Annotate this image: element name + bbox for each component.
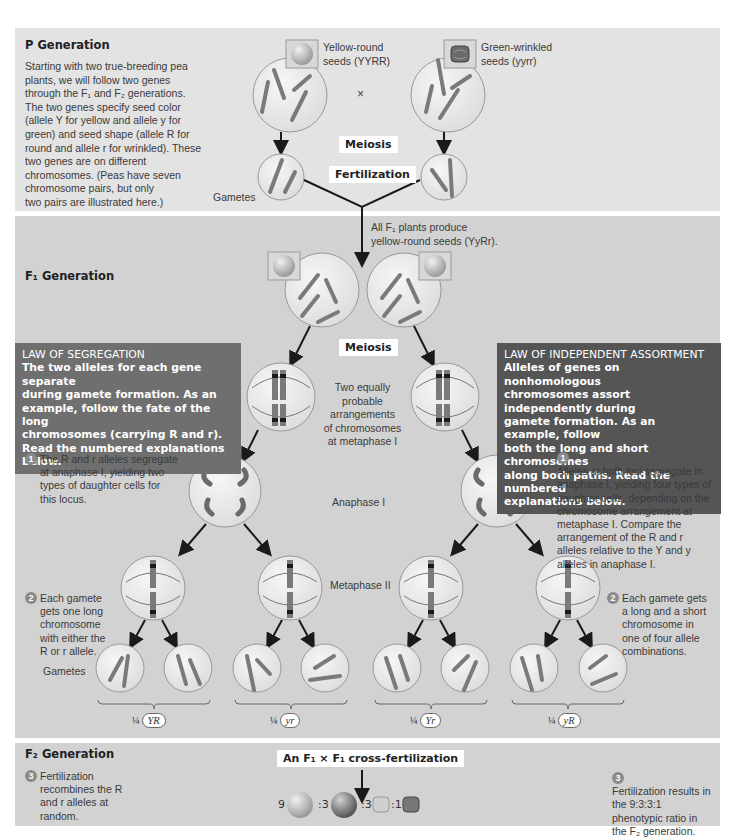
anaphase1-label: Anaphase I	[332, 496, 385, 510]
p-generation-title: P Generation	[25, 38, 110, 52]
step-line: chromosome	[40, 618, 105, 631]
f1-cross-label: An F₁ × F₁ cross-fertilization	[277, 750, 464, 767]
genotype-badge: yR	[558, 713, 581, 728]
step-line: anaphase I, yielding four types of	[557, 478, 711, 491]
law-line: chromosomes assort independently during	[504, 388, 714, 415]
ratio-count-green-round: :3	[318, 798, 329, 811]
f2-left-step-3: 3 Fertilization recombines the R and r a…	[25, 770, 135, 823]
step-line: metaphase I. Compare the	[557, 518, 711, 531]
step-line: Fertilization	[40, 770, 122, 783]
step-number-badge: 1	[25, 453, 37, 465]
law-line: gamete formation. As an example, follow	[504, 415, 714, 442]
gametes-label-f1: Gametes	[43, 665, 86, 679]
step-line: alleles relative to the Y and y	[557, 544, 711, 557]
left-step-1: 1 The R and r alleles segregate at anaph…	[25, 453, 185, 506]
metaphase1-line: arrangements	[315, 408, 410, 422]
metaphase1-line: probable	[315, 395, 410, 409]
meiosis-label-p: Meiosis	[339, 136, 398, 153]
step-line: phenotypic ratio in	[612, 812, 711, 825]
step-line: daughter cells, depending on the	[557, 492, 711, 505]
law-line: example, follow the fate of the long	[22, 402, 234, 429]
step-line: with either the	[40, 632, 105, 645]
law-line: Alleles of genes on nonhomologous	[504, 361, 714, 388]
intro-line: green) and seed shape (allele R for	[25, 128, 220, 142]
step-line: this locus.	[40, 493, 178, 506]
cross-symbol: ×	[357, 88, 364, 102]
metaphase2-label: Metaphase II	[330, 579, 391, 593]
meiosis-label-f1: Meiosis	[339, 339, 398, 356]
step-line: chromosome in	[622, 618, 707, 631]
intro-line: two pairs are illustrated here.)	[25, 196, 220, 210]
metaphase1-line: at metaphase I	[315, 435, 410, 449]
step-number-badge: 1	[557, 452, 569, 464]
gametes-label-p: Gametes	[213, 191, 256, 205]
left-step-2: 2 Each gamete gets one long chromosome w…	[25, 592, 135, 658]
genotype-badge: Yr	[420, 713, 442, 728]
step-number-badge: 3	[612, 772, 624, 784]
intro-line: (allele Y for yellow and allele y for	[25, 114, 220, 128]
intro-line: round and allele r for wrinkled). These	[25, 142, 220, 156]
step-number-badge: 2	[25, 592, 37, 604]
gamete-fraction-yr: ¼yr	[270, 713, 300, 728]
intro-line: chromosome pairs, but only	[25, 182, 220, 196]
step-line: recombines the R	[40, 783, 122, 796]
intro-line: plants, we will follow two genes	[25, 74, 220, 88]
f1-note: All F₁ plants produce yellow-round seeds…	[371, 221, 498, 248]
intro-line: two genes are on different	[25, 155, 220, 169]
green-round-seed-icon	[331, 792, 357, 818]
f1-note-line: All F₁ plants produce	[371, 221, 498, 235]
parent-left-phenotype: Yellow-round	[323, 41, 390, 55]
ratio-count-yellow-wrinkled: :3	[361, 798, 372, 811]
step-line: a long and a short	[622, 605, 707, 618]
parent-right-phenotype: Green-wrinkled	[481, 41, 552, 55]
law-segregation-heading: LAW OF SEGREGATION	[22, 348, 234, 361]
step-line: Fertilization results in	[612, 785, 711, 798]
parent-left-label: Yellow-round seeds (YYRR)	[323, 41, 390, 68]
intro-line: Starting with two true-breeding pea	[25, 60, 220, 74]
f2-right-step-3: 3 Fertilization results in the 9:3:3:1 p…	[612, 772, 722, 838]
gamete-fraction-Yr: ¼Yr	[410, 713, 441, 728]
step-line: at anaphase I, yielding two	[40, 466, 178, 479]
intro-line: The two genes specify seed color	[25, 101, 220, 115]
law-line: chromosomes (carrying R and r).	[22, 428, 234, 441]
yellow-wrinkled-seed-icon	[373, 797, 389, 812]
step-line: alleles in anaphase I.	[557, 558, 711, 571]
green-wrinkled-seed-icon	[403, 797, 419, 812]
fraction-value: ¼	[548, 715, 556, 726]
ratio-count-green-wrinkled: :1	[391, 798, 402, 811]
parent-right-genotype: seeds (yyrr)	[481, 55, 552, 69]
step-line: and r alleles at	[40, 796, 122, 809]
gamete-fraction-YR: ¼YR	[132, 713, 166, 728]
genotype-badge: yr	[280, 713, 301, 728]
step-line: Each gamete	[40, 592, 105, 605]
step-line: arrangement of the R and r	[557, 531, 711, 544]
law-line: during gamete formation. As an	[22, 388, 234, 401]
step-line: The R and r alleles segregate	[40, 453, 178, 466]
step-line: one of four allele	[622, 632, 707, 645]
parent-left-genotype: seeds (YYRR)	[323, 55, 390, 69]
ratio-count-yellow-round: 9	[278, 798, 285, 811]
step-line: the F₂ generation.	[612, 825, 711, 838]
step-line: types of daughter cells for	[40, 479, 178, 492]
yellow-round-seed-icon	[287, 792, 313, 818]
fraction-value: ¼	[410, 715, 418, 726]
p-generation-intro: Starting with two true-breeding pea plan…	[25, 60, 220, 210]
metaphase1-line: of chromosomes	[315, 422, 410, 436]
step-line: chromosome arrangement at	[557, 505, 711, 518]
f1-generation-title: F₁ Generation	[25, 269, 114, 283]
gamete-fraction-yR: ¼yR	[548, 713, 581, 728]
step-line: combinations.	[622, 645, 707, 658]
step-number-badge: 3	[25, 770, 37, 782]
right-step-2: 2 Each gamete gets a long and a short ch…	[607, 592, 717, 658]
parent-right-label: Green-wrinkled seeds (yyrr)	[481, 41, 552, 68]
step-line: Alleles at both loci segregate in	[557, 465, 711, 478]
right-step-1: 1 Alleles at both loci segregate in anap…	[557, 452, 722, 571]
genotype-badge: YR	[142, 713, 166, 728]
metaphase1-label: Two equally probable arrangements of chr…	[315, 381, 410, 449]
intro-line: chromosomes. (Peas have seven	[25, 169, 220, 183]
metaphase1-line: Two equally	[315, 381, 410, 395]
step-line: Each gamete gets	[622, 592, 707, 605]
law-line: The two alleles for each gene separate	[22, 361, 234, 388]
step-line: the 9:3:3:1	[612, 798, 711, 811]
f1-note-line: yellow-round seeds (YyRr).	[371, 235, 498, 249]
